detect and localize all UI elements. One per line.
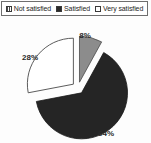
pie-plot-area: 8% 64% 28%	[0, 16, 151, 143]
hatched-square-icon	[6, 6, 12, 12]
pie-label-very-satisfied: 28%	[22, 53, 38, 62]
legend-label-satisfied: Satisfied	[64, 5, 90, 12]
legend-item-satisfied: Satisfied	[56, 5, 90, 12]
filled-square-icon	[56, 6, 62, 12]
pie-label-not-satisfied: 8%	[79, 31, 91, 40]
pie-svg: 8% 64% 28%	[0, 16, 151, 143]
chart-legend: Not satisfied Satisfied Very satisfied	[1, 1, 148, 16]
legend-label-not-satisfied: Not satisfied	[14, 5, 51, 12]
legend-label-very-satisfied: Very satisfied	[103, 5, 143, 12]
legend-item-very-satisfied: Very satisfied	[95, 5, 143, 12]
pie-label-satisfied: 64%	[98, 129, 114, 138]
legend-item-not-satisfied: Not satisfied	[6, 5, 51, 12]
pie-slice-very-satisfied	[27, 38, 73, 93]
pie-chart-figure: Not satisfied Satisfied Very satisfied 8…	[0, 0, 151, 143]
empty-square-icon	[95, 6, 101, 12]
